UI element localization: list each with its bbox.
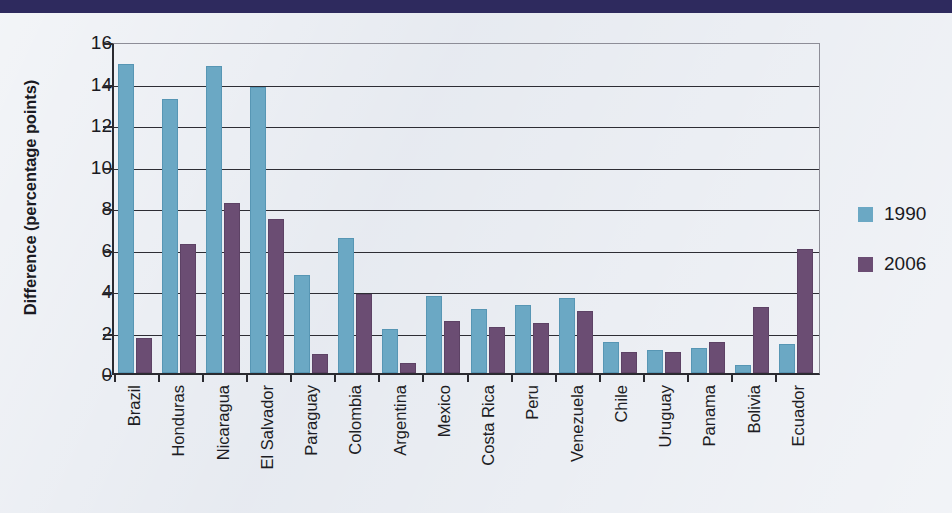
x-tick-label: Peru <box>523 385 542 420</box>
bar-1990 <box>603 342 619 373</box>
y-tick-mark <box>103 375 112 377</box>
bar-1990 <box>382 329 398 373</box>
x-tick-label: Uruguay <box>656 385 675 447</box>
y-tick-mark <box>103 292 112 294</box>
bar-2006 <box>136 338 152 373</box>
bar-2006 <box>312 354 328 373</box>
x-tick-label: Honduras <box>169 385 188 457</box>
bar-1990 <box>250 87 266 373</box>
x-tick-label: Costa Rica <box>479 385 498 466</box>
bar-group <box>643 44 687 373</box>
bar-2006 <box>489 327 505 373</box>
legend-label-1990: 1990 <box>884 203 926 225</box>
legend-label-2006: 2006 <box>884 253 926 275</box>
bar-2006 <box>356 294 372 373</box>
x-label-cell: Brazil <box>112 381 156 501</box>
x-tick-label: Panama <box>700 385 719 446</box>
bar-2006 <box>665 352 681 373</box>
y-axis-ticks: 1614121086420 <box>56 43 112 375</box>
x-label-cell: Colombia <box>333 381 377 501</box>
bar-1990 <box>206 66 222 373</box>
bar-group <box>334 44 378 373</box>
legend-swatch-icon-2006 <box>858 257 873 272</box>
x-tick-label: Argentina <box>390 385 409 456</box>
y-tick-mark <box>103 126 112 128</box>
bar-2006 <box>180 244 196 373</box>
bar-groups <box>114 44 819 373</box>
bar-2006 <box>709 342 725 373</box>
y-tick-mark <box>103 43 112 45</box>
x-tick-label: Ecuador <box>788 385 807 446</box>
bar-2006 <box>753 307 769 373</box>
x-label-cell: Panama <box>687 381 731 501</box>
bar-1990 <box>426 296 442 373</box>
bar-group <box>555 44 599 373</box>
chart-page: Difference (percentage points) 161412108… <box>0 0 952 513</box>
x-tick-label: Bolivia <box>744 385 763 434</box>
bar-group <box>246 44 290 373</box>
page-top-band <box>0 0 952 13</box>
x-axis-labels: BrazilHondurasNicaraguaEl SalvadorParagu… <box>112 381 820 501</box>
bar-2006 <box>533 323 549 373</box>
y-tick-mark <box>103 85 112 87</box>
x-label-cell: Paraguay <box>289 381 333 501</box>
x-label-cell: El Salvador <box>245 381 289 501</box>
bar-1990 <box>162 99 178 373</box>
x-label-cell: Venezuela <box>555 381 599 501</box>
bar-2006 <box>577 311 593 373</box>
x-tick-label: Venezuela <box>567 385 586 462</box>
legend-item-1990: 1990 <box>858 203 948 225</box>
bar-2006 <box>224 203 240 373</box>
bar-group <box>422 44 466 373</box>
legend-item-2006: 2006 <box>858 253 948 275</box>
x-label-cell: Uruguay <box>643 381 687 501</box>
bar-group <box>731 44 775 373</box>
bar-1990 <box>515 305 531 373</box>
bar-group <box>114 44 158 373</box>
bar-1990 <box>779 344 795 373</box>
x-label-cell: Honduras <box>156 381 200 501</box>
bar-group <box>378 44 422 373</box>
bar-2006 <box>444 321 460 373</box>
bar-group <box>467 44 511 373</box>
bar-group <box>158 44 202 373</box>
bar-1990 <box>691 348 707 373</box>
bar-1990 <box>471 309 487 373</box>
x-label-cell: Mexico <box>422 381 466 501</box>
x-label-cell: Peru <box>510 381 554 501</box>
plot-area <box>112 43 820 375</box>
bar-chart: Difference (percentage points) 161412108… <box>0 13 952 513</box>
x-tick-label: El Salvador <box>257 385 276 469</box>
x-label-cell: Chile <box>599 381 643 501</box>
bar-2006 <box>268 219 284 373</box>
x-label-cell: Nicaragua <box>201 381 245 501</box>
x-tick-label: Chile <box>611 385 630 423</box>
bar-1990 <box>294 275 310 373</box>
bar-group <box>687 44 731 373</box>
y-tick-mark <box>103 334 112 336</box>
x-tick-label: Nicaragua <box>213 385 232 460</box>
x-tick-label: Paraguay <box>302 385 321 456</box>
bar-group <box>290 44 334 373</box>
bar-1990 <box>338 238 354 373</box>
bar-group <box>202 44 246 373</box>
bar-group <box>599 44 643 373</box>
x-tick-label: Brazil <box>125 385 144 426</box>
legend-swatch-icon-1990 <box>858 207 873 222</box>
legend: 1990 2006 <box>858 203 948 303</box>
bar-2006 <box>797 249 813 374</box>
bar-1990 <box>559 298 575 373</box>
bar-group <box>775 44 819 373</box>
y-tick-mark <box>103 168 112 170</box>
bar-2006 <box>621 352 637 373</box>
y-axis-title: Difference (percentage points) <box>21 28 40 368</box>
bar-2006 <box>400 363 416 373</box>
x-tick-label: Mexico <box>434 385 453 437</box>
x-label-cell: Argentina <box>378 381 422 501</box>
bar-1990 <box>647 350 663 373</box>
bar-1990 <box>735 365 751 373</box>
bar-1990 <box>118 64 134 373</box>
x-label-cell: Bolivia <box>732 381 776 501</box>
bar-group <box>511 44 555 373</box>
x-label-cell: Costa Rica <box>466 381 510 501</box>
